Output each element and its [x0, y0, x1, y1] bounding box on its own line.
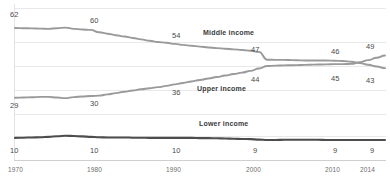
- value-label: 30: [90, 99, 99, 108]
- value-label: 9: [333, 146, 337, 155]
- series-label-upper-income: Upper income: [197, 85, 246, 93]
- line-middle-income: [15, 28, 385, 69]
- value-label: 47: [251, 45, 260, 54]
- value-label: 46: [331, 47, 340, 56]
- value-label: 9: [253, 146, 257, 155]
- value-label: 29: [10, 101, 19, 110]
- line-lower-income: [15, 136, 385, 140]
- x-tick-2014: 2014: [360, 166, 375, 174]
- x-tick-1970: 1970: [8, 166, 23, 174]
- plot-area: 626054474649293036444543101010999 Middle…: [0, 0, 390, 185]
- value-label: 62: [10, 10, 19, 19]
- value-label: 44: [251, 75, 260, 84]
- value-label: 10: [90, 146, 99, 155]
- income-tiers-line-chart: 626054474649293036444543101010999 Middle…: [0, 0, 390, 185]
- value-label: 36: [172, 88, 181, 97]
- value-label: 9: [370, 146, 374, 155]
- series-lines-group: [0, 0, 390, 185]
- value-label: 54: [172, 31, 181, 40]
- x-tick-1980: 1980: [87, 166, 102, 174]
- value-label: 45: [331, 74, 340, 83]
- x-tick-2010: 2010: [325, 166, 340, 174]
- value-label: 49: [366, 42, 375, 51]
- x-tick-2000: 2000: [246, 166, 261, 174]
- value-label: 10: [10, 146, 19, 155]
- value-label: 60: [90, 16, 99, 25]
- series-label-lower-income: Lower income: [199, 120, 248, 128]
- x-tick-1990: 1990: [166, 166, 181, 174]
- series-label-middle-income: Middle income: [203, 29, 254, 37]
- value-label: 10: [172, 146, 181, 155]
- value-label: 43: [366, 76, 375, 85]
